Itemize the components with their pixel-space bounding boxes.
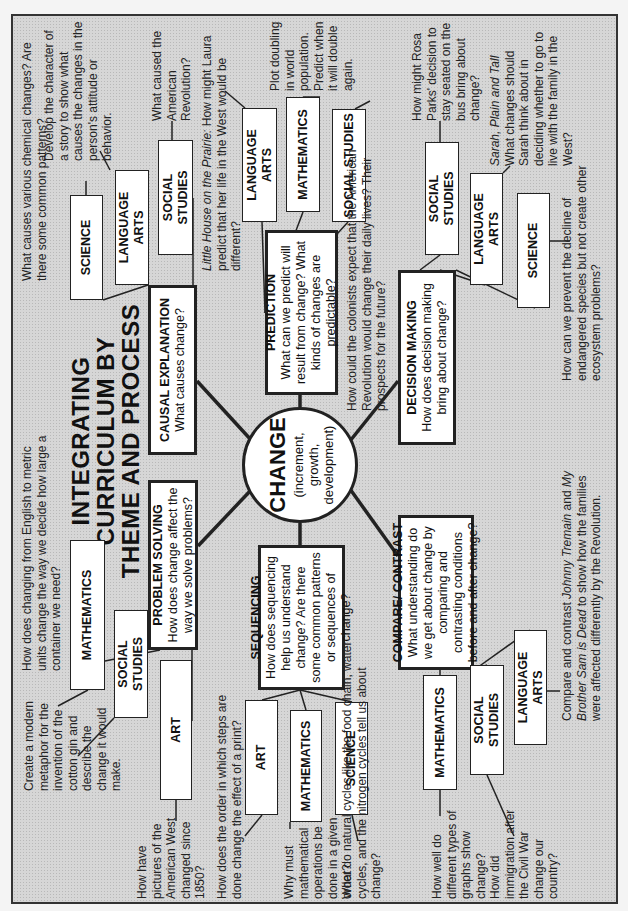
process-question: How does change affect the way we solve …: [166, 487, 196, 643]
note-causal-language-arts: Develop the character of a story to show…: [42, 21, 115, 161]
process-title: PREDICTION: [264, 237, 279, 388]
subject-decision-social-studies: SOCIAL STUDIES: [425, 142, 459, 255]
subject-problem-art: ART: [160, 660, 192, 800]
process-decision-making: DECISION MAKING How does decision making…: [398, 270, 456, 445]
note-decision-science: How can we prevent the decline of endang…: [560, 161, 604, 381]
center-change-node: CHANGE (increment, growth, development): [242, 407, 358, 523]
note-compare-language-arts: Compare and contrast Johnny Tremain and …: [560, 461, 604, 721]
note-prediction-social-studies: How could the colonists expect that the …: [345, 111, 389, 411]
subject-sequencing-art: ART: [245, 700, 278, 815]
process-compare-contrast: COMPARE/ CONTRAST What understanding do …: [398, 515, 474, 670]
book-title: Little House on the Prairie:: [200, 130, 214, 271]
note-compare-social-studies: How did immigration after the Civil War …: [488, 799, 561, 899]
subject-causal-social-studies: SOCIAL STUDIES: [158, 140, 193, 255]
subject-sequencing-mathematics: MATHEMATICS: [290, 710, 322, 822]
subject-causal-language-arts: LANGUAGE ARTS: [115, 170, 149, 285]
book-title: Sarah, Plain and Tall: [488, 56, 502, 166]
process-title: DECISION MAKING: [405, 277, 420, 438]
process-title: SEQUENCING: [249, 552, 264, 683]
subject-compare-social-studies: SOCIAL STUDIES: [470, 665, 504, 775]
note-sequencing-science: What do natural cycles like the food cha…: [340, 639, 384, 899]
process-title: COMPARE/ CONTRAST: [391, 522, 406, 663]
process-title: PROBLEM SOLVING: [151, 487, 166, 643]
note-causal-social-studies: What caused the American Revolution?: [150, 26, 194, 121]
process-problem-solving: PROBLEM SOLVING How does change affect t…: [148, 480, 198, 650]
process-causal-explanation: CAUSAL EXPLANATION What causes change?: [148, 285, 197, 455]
subject-causal-science: SCIENCE: [70, 195, 103, 300]
process-question: What understanding do we get about chang…: [406, 522, 481, 663]
subject-prediction-mathematics: MATHEMATICS: [286, 97, 320, 212]
process-question: How does decision making bring about cha…: [420, 277, 450, 438]
note-decision-language-arts: Sarah, Plain and Tall What changes shoul…: [488, 16, 575, 166]
subject-compare-mathematics: MATHEMATICS: [423, 675, 457, 790]
note-problem-social-studies: Create a modern metaphor for the inventi…: [22, 691, 124, 791]
note-prediction-language-arts: Little House on the Prairie: How might L…: [200, 31, 244, 271]
subject-problem-mathematics: MATHEMATICS: [70, 540, 105, 690]
note-decision-social-studies: How might Rosa Parks' decision to stay s…: [410, 21, 483, 121]
note-compare-mathematics: How well do different types of graphs sh…: [430, 804, 488, 899]
subject-compare-language-arts: LANGUAGE ARTS: [514, 630, 547, 745]
center-sub-2: development): [321, 426, 336, 505]
process-prediction: PREDICTION What can we predict will resu…: [265, 230, 338, 395]
subject-decision-language-arts: LANGUAGE ARTS: [470, 173, 503, 285]
title-line-3: THEME AND PROCESS: [118, 271, 143, 611]
process-title: CAUSAL EXPLANATION: [158, 292, 173, 448]
center-sub-1: (increment, growth,: [291, 410, 321, 520]
process-sequencing: SEQUENCING How does sequencing help us u…: [258, 545, 345, 690]
process-question: What causes change?: [173, 292, 188, 448]
diagram-canvas: INTEGRATING CURRICULUM BY THEME AND PROC…: [0, 0, 628, 911]
note-prediction-mathematics: Plot doubling in world population. Predi…: [268, 13, 355, 91]
subject-decision-science: SCIENCE: [517, 193, 550, 308]
process-question: What can we predict will result from cha…: [279, 237, 339, 388]
note-sequencing-art: How does the order in which steps are do…: [215, 669, 244, 899]
note-problem-mathematics: How does changing from English to metric…: [20, 421, 64, 671]
subject-prediction-language-arts: LANGUAGE ARTS: [242, 108, 277, 222]
center-label: CHANGE: [265, 417, 291, 512]
note-problem-art: How have pictures of the American West c…: [135, 814, 208, 899]
